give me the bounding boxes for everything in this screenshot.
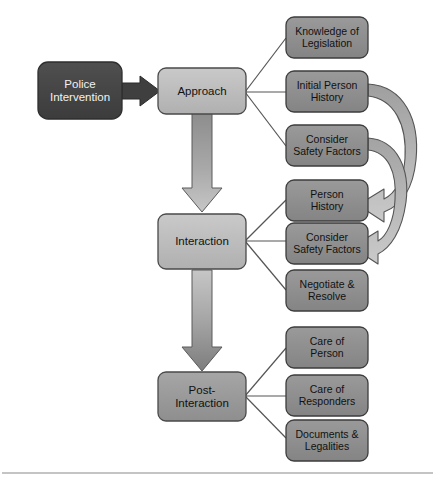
node-person-history[interactable] [286, 180, 368, 221]
connectors-approach [245, 38, 286, 146]
node-documents-and-legalities[interactable] [286, 420, 368, 461]
node-post-interaction[interactable] [158, 372, 246, 421]
node-knowledge-of-legislation[interactable] [286, 17, 368, 58]
node-interaction[interactable] [158, 214, 246, 269]
node-consider-safety-factors-interaction[interactable] [286, 223, 368, 264]
node-consider-safety-factors-approach[interactable] [286, 125, 368, 166]
diagram-canvas: Police Intervention Approach Interaction… [0, 0, 435, 482]
node-approach[interactable] [158, 68, 246, 114]
arrow-police-to-approach [122, 76, 160, 106]
node-negotiate-and-resolve[interactable] [286, 270, 368, 311]
arrow-approach-to-interaction [182, 113, 222, 212]
connectors-interaction [245, 200, 286, 290]
diagram-graphics [0, 0, 435, 482]
node-care-of-person[interactable] [286, 327, 368, 368]
connectors-post-interaction [245, 348, 286, 438]
node-police-intervention[interactable] [38, 62, 122, 119]
node-initial-person-history[interactable] [286, 71, 368, 112]
arrow-interaction-to-post-interaction [182, 270, 222, 371]
node-care-of-responders[interactable] [286, 375, 368, 416]
